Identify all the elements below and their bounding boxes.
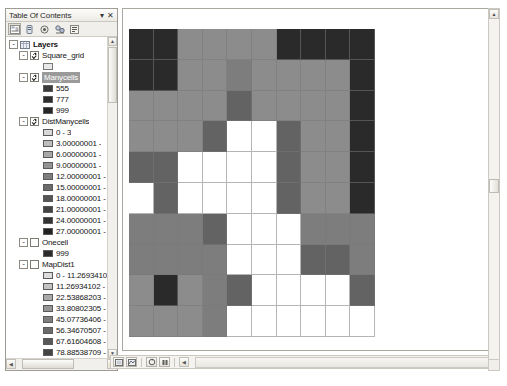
expander-toggle[interactable]: -: [9, 40, 18, 49]
legend-color-swatch[interactable]: [43, 173, 53, 180]
legend-color-swatch[interactable]: [43, 107, 53, 114]
layer-visibility-checkbox[interactable]: [30, 73, 39, 82]
map-data-frame[interactable]: [122, 8, 490, 351]
list-by-source-icon[interactable]: [23, 23, 36, 35]
legend-dist-0[interactable]: 0 - 3: [32, 127, 107, 138]
legend-dist-4[interactable]: 12.00000001 -: [32, 171, 107, 182]
legend-color-swatch[interactable]: [43, 250, 53, 257]
toc-vertical-scrollbar[interactable]: ▲ ▼: [107, 37, 117, 358]
layer-visibility-checkbox[interactable]: [30, 51, 39, 60]
legend-dist-1[interactable]: 3.00000001 -: [32, 138, 107, 149]
legend-mapdist-7[interactable]: 78.88538709 -: [32, 347, 107, 358]
toc-hscroll-thumb[interactable]: [22, 359, 74, 369]
legend-color-swatch[interactable]: [43, 316, 53, 323]
layer-visibility-checkbox[interactable]: [30, 260, 39, 269]
legend-color-swatch[interactable]: [43, 338, 53, 345]
legend-color-swatch[interactable]: [43, 140, 53, 147]
legend-color-swatch[interactable]: [43, 305, 53, 312]
legend-color-swatch[interactable]: [43, 151, 53, 158]
legend-color-swatch[interactable]: [43, 85, 53, 92]
pause-drawing-icon[interactable]: [159, 357, 170, 367]
legend-color-swatch[interactable]: [43, 217, 53, 224]
expander-toggle[interactable]: -: [19, 51, 28, 60]
raster-cell: [154, 183, 179, 214]
legend-color-swatch[interactable]: [43, 162, 53, 169]
legend-mapdist-1[interactable]: 11.26934102 -: [32, 281, 107, 292]
map-scroll-left-icon[interactable]: ◀: [179, 357, 189, 367]
expander-toggle[interactable]: -: [19, 117, 28, 126]
raster-cell: [227, 275, 252, 306]
raster-cell: [252, 275, 277, 306]
list-by-drawing-order-icon[interactable]: [8, 23, 21, 35]
expander-toggle[interactable]: -: [19, 238, 28, 247]
expander-spacer: [32, 62, 41, 71]
legend-color-swatch[interactable]: [43, 272, 53, 279]
raster-cell: [326, 29, 351, 60]
legend-color-swatch[interactable]: [43, 327, 53, 334]
window-vertical-scrollbar[interactable]: ▲ ▼: [488, 8, 500, 371]
tree-item-label: 555: [56, 83, 69, 94]
data-view-icon[interactable]: [126, 357, 137, 367]
legend-mapdist-2[interactable]: 22.53868203 -: [32, 292, 107, 303]
scroll-up-icon[interactable]: ▲: [108, 37, 117, 46]
legend-color-swatch[interactable]: [43, 283, 53, 290]
tree-item-label: 33.80802305 -: [56, 303, 106, 314]
legend-dist-8[interactable]: 24.00000001 -: [32, 215, 107, 226]
refresh-icon[interactable]: [146, 357, 157, 367]
raster-cell: [203, 275, 228, 306]
layers-root[interactable]: -Layers: [9, 39, 107, 50]
legend-color-swatch[interactable]: [43, 129, 53, 136]
legend-manycells-777[interactable]: 777: [32, 94, 107, 105]
window-scroll-up-icon[interactable]: ▲: [489, 9, 499, 19]
legend-manycells-999[interactable]: 999: [32, 105, 107, 116]
legend-mapdist-0[interactable]: 0 - 11.2693410: [32, 270, 107, 281]
raster-cell: [203, 91, 228, 122]
layout-view-icon[interactable]: [113, 357, 124, 367]
expander-toggle[interactable]: -: [19, 73, 28, 82]
raster-cell: [277, 214, 302, 245]
legend-color-swatch[interactable]: [43, 294, 53, 301]
legend-dist-7[interactable]: 21.00000001 -: [32, 204, 107, 215]
expander-spacer: [32, 95, 41, 104]
legend-color-swatch[interactable]: [43, 349, 53, 356]
options-icon[interactable]: [68, 23, 81, 35]
legend-dist-9[interactable]: 27.00000001 -: [32, 226, 107, 237]
legend-dist-6[interactable]: 18.00000001 -: [32, 193, 107, 204]
toc-horizontal-scrollbar[interactable]: ◀ ▶: [6, 358, 117, 370]
legend-color-swatch[interactable]: [43, 184, 53, 191]
raster-cell: [178, 121, 203, 152]
legend-dist-2[interactable]: 6.00000001 -: [32, 149, 107, 160]
legend-dist-5[interactable]: 15.00000001 -: [32, 182, 107, 193]
list-by-selection-icon[interactable]: [53, 23, 66, 35]
list-by-visibility-icon[interactable]: [38, 23, 51, 35]
layer-distmanycells[interactable]: -DistManycells: [19, 116, 107, 127]
close-icon[interactable]: ✕: [106, 11, 115, 20]
legend-dist-3[interactable]: 9.00000001 -: [32, 160, 107, 171]
legend-mapdist-3[interactable]: 33.80802305 -: [32, 303, 107, 314]
legend-color-swatch[interactable]: [43, 195, 53, 202]
map-horizontal-scrollbar[interactable]: [195, 357, 489, 368]
layer-onecell[interactable]: -Onecell: [19, 237, 107, 248]
legend-mapdist-6[interactable]: 67.61604608 -: [32, 336, 107, 347]
toc-vscroll-thumb[interactable]: [108, 47, 117, 103]
legend-mapdist-4[interactable]: 45.07736406 -: [32, 314, 107, 325]
expander-toggle[interactable]: -: [19, 260, 28, 269]
legend-color-swatch[interactable]: [43, 63, 53, 70]
layer-visibility-checkbox[interactable]: [30, 117, 39, 126]
legend-mapdist-5[interactable]: 56.34670507 -: [32, 325, 107, 336]
window-vscroll-thumb[interactable]: [489, 179, 499, 193]
auto-hide-pin-icon[interactable]: ▾: [97, 11, 106, 20]
legend-color-swatch[interactable]: [43, 228, 53, 235]
raster-cell: [227, 121, 252, 152]
layer-manycells[interactable]: -Manycells: [19, 72, 107, 83]
legend-color-swatch[interactable]: [43, 96, 53, 103]
toc-tree[interactable]: -Layers-Square_grid-Manycells555777999-D…: [6, 37, 107, 358]
scroll-left-icon[interactable]: ◀: [6, 359, 16, 369]
legend-color-swatch[interactable]: [43, 206, 53, 213]
symbol-square-grid-outline[interactable]: [32, 61, 107, 72]
legend-manycells-555[interactable]: 555: [32, 83, 107, 94]
legend-onecell-999[interactable]: 999: [32, 248, 107, 259]
layer-visibility-checkbox[interactable]: [30, 238, 39, 247]
layer-square-grid[interactable]: -Square_grid: [19, 50, 107, 61]
layer-mapdist1[interactable]: -MapDist1: [19, 259, 107, 270]
